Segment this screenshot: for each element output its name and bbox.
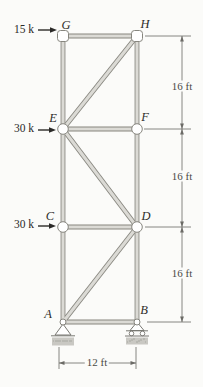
joint-label-a: A (44, 308, 52, 321)
joint-label-e: E (49, 112, 57, 125)
joint-label-f: F (141, 111, 149, 124)
truss-drawing (0, 0, 203, 387)
dim-label-16ft-middle: 16 ft (170, 171, 194, 182)
dim-label-12ft: 12 ft (85, 357, 109, 368)
load-label-30k-e: 30 k (14, 123, 34, 135)
joint-label-h: H (140, 18, 149, 31)
load-label-15k: 15 k (14, 24, 34, 36)
dim-label-16ft-top: 16 ft (170, 81, 194, 92)
dim-label-16ft-bottom: 16 ft (170, 268, 194, 279)
truss-diagram: G H E F C D A B 15 k 30 k 30 k 16 ft 16 … (0, 0, 203, 387)
joint-label-c: C (46, 210, 54, 223)
joint-label-b: B (140, 304, 148, 317)
joint-label-d: D (141, 210, 150, 223)
load-label-30k-c: 30 k (14, 219, 34, 231)
joint-label-g: G (61, 19, 70, 32)
